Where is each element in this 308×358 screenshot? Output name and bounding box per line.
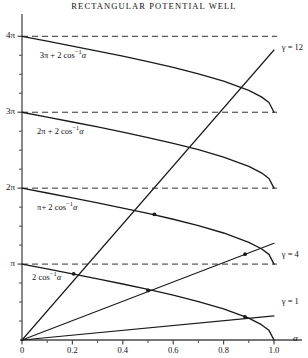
y-tick-label-pi: π [10,258,15,268]
curve-label-3pi-arg: α [82,50,86,60]
x-tick-label-0.6: 0.6 [159,345,187,355]
intersection-point [146,289,150,293]
intersection-point [243,252,247,256]
curve-label-base-text: 2 cos [32,272,50,282]
x-tick-label-1.0: 1.0 [260,345,288,355]
gamma-label-1: γ = 1 [282,296,299,306]
curve-pi-2-cos-1-alpha [22,188,274,264]
curve-label-3pi-sup: −1 [75,48,82,55]
curve-label-pi: π+ 2 cos−1α [37,202,77,212]
x-tick-label-0.2: 0.2 [58,345,86,355]
curve-2pi-2-cos-1-alpha [22,112,274,188]
curve-label-2pi: 2π + 2 cos−1α [37,126,84,136]
curve-label-base-sup: −1 [50,271,57,278]
y-tick-label-2pi: 2π [6,182,15,192]
curve-label-base: 2 cos−1α [32,272,61,282]
y-tick-label-3pi: 3π [6,106,15,116]
curve-label-2pi-text: 2π + 2 cos [37,126,72,136]
x-tick-label-0.4: 0.4 [109,345,137,355]
y-tick-label-4pi: 4π [6,30,15,40]
curve-label-pi-sup: −1 [66,200,73,207]
curve-label-pi-arg: α [73,202,77,212]
curve-label-pi-text: π+ 2 cos [37,202,66,212]
intersection-point [243,315,247,319]
intersection-point [72,272,76,276]
x-tick-label-0: 0 [8,345,36,355]
gamma-label-12: γ = 12 [282,42,303,52]
curve-gamma-1 [22,316,274,340]
x-axis-label: α [293,333,298,343]
curve-label-base-arg: α [57,272,61,282]
intersection-point [152,212,156,216]
curve-3pi-2-cos-1-alpha [22,36,274,112]
curve-label-2pi-arg: α [79,126,83,136]
curve-label-3pi-text: 3π + 2 cos [40,50,75,60]
gamma-label-4: γ = 4 [282,249,299,259]
x-tick-label-0.8: 0.8 [210,345,238,355]
chart-root: RECTANGULAR POTENTIAL WELL 4π 3π 2π π 0 … [0,0,308,358]
curve-label-3pi: 3π + 2 cos−1α [40,50,87,60]
